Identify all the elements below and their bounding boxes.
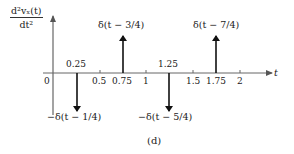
y-axis-label-numerator: d²vₓ(t) bbox=[10, 6, 43, 18]
origin-label: 0 bbox=[44, 77, 50, 86]
tick-label-0.5: 0.5 bbox=[92, 77, 106, 86]
impulse-label-t-1.25: −δ(t − 5/4) bbox=[138, 112, 192, 122]
impulse-label-t-0.25: −δ(t − 1/4) bbox=[47, 112, 101, 122]
impulse-label-t-0.75: δ(t − 3/4) bbox=[98, 20, 144, 30]
x-axis-label: t bbox=[274, 68, 278, 78]
tick-label-1.75: 1.75 bbox=[206, 77, 226, 86]
tick-label-1.5: 1.5 bbox=[186, 77, 200, 86]
y-axis-label: d²vₓ(t) dt² bbox=[10, 6, 43, 29]
tick-label-1: 1 bbox=[143, 77, 149, 86]
impulse-label-t-1.75: δ(t − 7/4) bbox=[193, 20, 239, 30]
figure-caption: (d) bbox=[147, 135, 161, 146]
tick-label-1.25: 1.25 bbox=[158, 60, 178, 69]
tick-label-2: 2 bbox=[237, 77, 243, 86]
tick-label-0.75: 0.75 bbox=[112, 77, 132, 86]
tick-label-0.25: 0.25 bbox=[66, 60, 86, 69]
y-axis-label-denominator: dt² bbox=[10, 18, 43, 30]
